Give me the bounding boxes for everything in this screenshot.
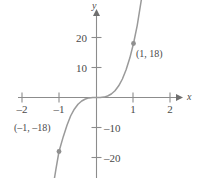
- x-tick-label--2: –2: [17, 104, 28, 115]
- x-tick-label-2: 2: [167, 104, 173, 115]
- y-axis-label: y: [92, 1, 96, 11]
- point-label-1-18: (1, 18): [136, 49, 163, 59]
- y-tick-label--10: –10: [104, 122, 121, 133]
- data-point-neg1-neg18: [57, 149, 62, 154]
- x-tick-label--1: –1: [54, 104, 65, 115]
- y-tick-label-20: 20: [76, 32, 87, 43]
- x-axis-label: x: [187, 92, 191, 102]
- point-label-neg1-neg18: (–1, –18): [14, 123, 51, 133]
- coordinate-plane: [0, 0, 200, 178]
- graph-figure: –2 –1 1 2 20 10 –10 –20 x y (1, 18) (–1,…: [0, 0, 200, 178]
- y-tick-label--20: –20: [104, 152, 121, 163]
- y-tick-label-10: 10: [76, 62, 87, 73]
- data-point-1-18: [131, 41, 136, 46]
- x-tick-label-1: 1: [130, 104, 136, 115]
- x-axis-arrowhead: [176, 94, 183, 101]
